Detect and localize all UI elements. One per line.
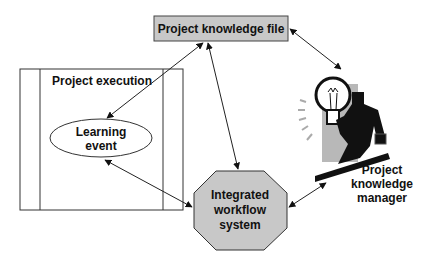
diagram-canvas: Project execution Learning event Project… [0, 0, 424, 253]
learning-event-label-1: Learning [76, 125, 127, 139]
knowledge-file-node: Project knowledge file [154, 16, 288, 41]
edge-file-manager [290, 29, 341, 69]
workflow-system-label-3: system [219, 218, 260, 232]
knowledge-manager-label-2: knowledge [351, 177, 413, 191]
project-execution-label: Project execution [52, 74, 152, 88]
knowledge-file-label: Project knowledge file [158, 22, 285, 36]
workflow-system-node: Integrated workflow system [194, 171, 287, 250]
knowledge-manager-label-3: manager [357, 191, 407, 205]
knowledge-manager-label-1: Project [362, 163, 403, 177]
edge-file-workflow [208, 43, 238, 169]
workflow-system-label-2: workflow [213, 203, 267, 217]
learning-event-node: Learning event [50, 119, 152, 157]
workflow-system-label-1: Integrated [211, 188, 269, 202]
learning-event-label-2: event [85, 139, 116, 153]
edge-workflow-manager [289, 183, 326, 207]
